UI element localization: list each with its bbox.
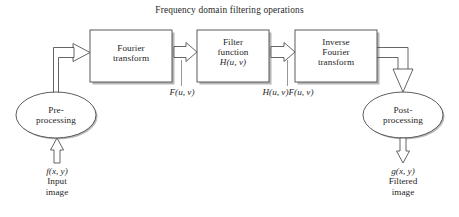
postprocessing-label-line2: processing [363, 116, 443, 126]
input-image-line1: Input [17, 176, 97, 186]
diagram-title: Frequency domain filtering operations [0, 6, 459, 16]
output-image-symbol: g(x, y) [363, 166, 443, 176]
output-image-line2: image [363, 187, 443, 197]
inverse-fourier-transform-label-line3: transform [295, 58, 377, 68]
output-image-line1: Filtered [363, 176, 443, 186]
fourier-transform-label: Fourier transform [90, 44, 172, 64]
input-image-symbol: f(x, y) [17, 166, 97, 176]
input-to-preprocessing-arrow [51, 138, 64, 163]
output-image-label: g(x, y) Filtered image [363, 166, 443, 197]
filter-to-inverse-fourier-arrow [271, 43, 295, 62]
inverse-fourier-transform-label: Inverse Fourier transform [295, 38, 377, 67]
frequency-domain-filtering-diagram: .shp { fill:#ffffff; stroke:#4a4a4a; str… [0, 0, 459, 217]
filter-output-signal-label: H(u, v)F(u, v) [240, 88, 336, 98]
fourier-to-filter-arrow [174, 43, 197, 62]
filter-function-transfer-label: H(u, v) [197, 58, 269, 68]
input-image-line2: image [17, 187, 97, 197]
fourier-transform-label-line2: transform [90, 54, 172, 64]
postprocessing-label: Post- processing [363, 106, 443, 126]
input-image-label: f(x, y) Input image [17, 166, 97, 197]
inverse-fourier-to-postprocessing-arrow [393, 69, 413, 92]
fourier-output-signal-label: F(u, v) [151, 88, 213, 98]
preprocessing-label: Pre- processing [16, 106, 96, 126]
preprocessing-label-line2: processing [16, 116, 96, 126]
filter-function-label: Filter function H(u, v) [197, 38, 269, 67]
preprocessing-to-fourier-arrow [73, 44, 90, 62]
postprocessing-to-output-arrow [397, 138, 410, 163]
